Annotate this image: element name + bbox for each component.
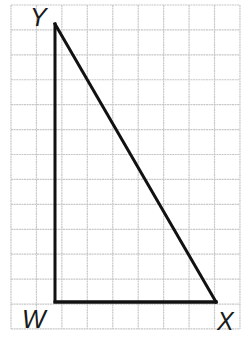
- triangle-wxy: [55, 24, 216, 302]
- vertex-label-x: X: [216, 307, 235, 335]
- vertex-label-w: W: [22, 305, 48, 333]
- edge-yx-hypotenuse: [55, 24, 216, 302]
- vertex-label-y: Y: [30, 3, 49, 31]
- triangle-grid-diagram: Y W X: [0, 0, 244, 338]
- grid: [11, 5, 240, 329]
